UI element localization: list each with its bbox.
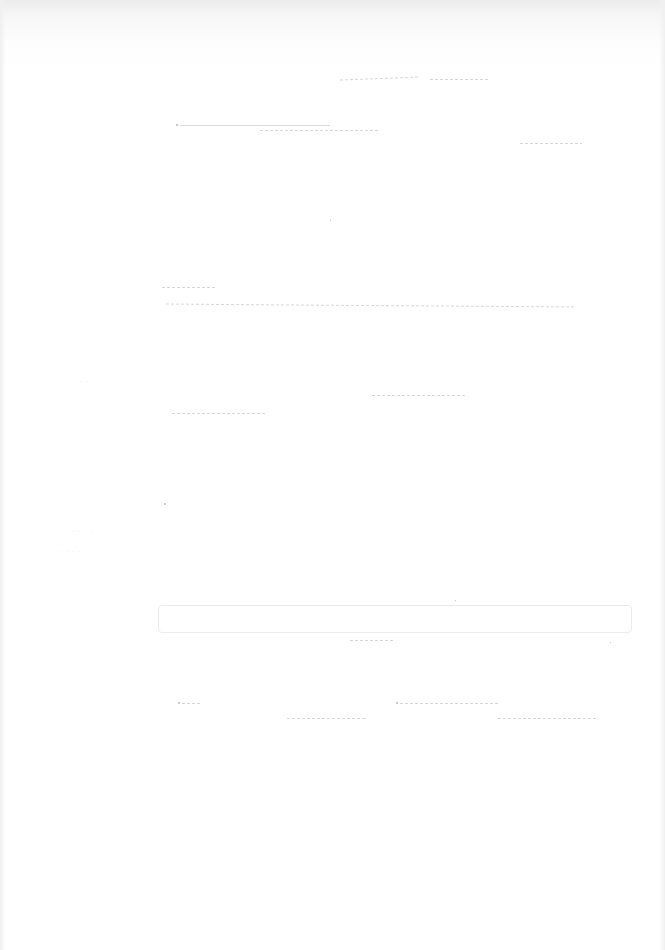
bleed-mark [372, 395, 467, 396]
bleed-dot [176, 124, 178, 126]
page-edge-shadow-right [659, 0, 665, 950]
bleed-mark [172, 413, 267, 414]
page-edge-shadow-left [0, 0, 6, 950]
bleed-specks: · · · [80, 378, 96, 385]
bleed-mark [287, 718, 367, 719]
faint-box-outline [158, 605, 632, 633]
bleed-dot [178, 702, 180, 704]
bleed-mark [162, 287, 217, 288]
bleed-mark [182, 703, 202, 704]
speck [610, 642, 611, 643]
speck [455, 600, 456, 601]
bleed-mark [430, 79, 490, 80]
bleed-mark [260, 130, 380, 131]
bleed-mark [350, 640, 395, 641]
bleed-dot [396, 702, 398, 704]
bleed-mark [520, 143, 582, 144]
speck [330, 220, 331, 221]
bleed-line [180, 125, 330, 126]
bleed-line-long [166, 304, 576, 308]
bleed-dot [164, 503, 166, 505]
bleed-specks: · · · · · [72, 528, 100, 535]
bleed-mark [400, 703, 500, 704]
bleed-specks: · · · · [60, 548, 82, 555]
document-page: · · · · · · · · · · · · [0, 0, 665, 950]
bleed-mark [340, 77, 420, 81]
bleed-mark [498, 718, 598, 719]
